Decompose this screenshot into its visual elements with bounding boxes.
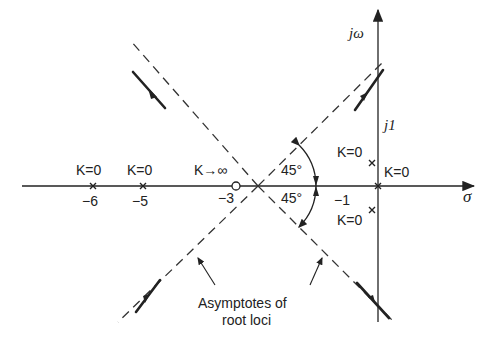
tick-minus5: −5 [132,194,148,208]
label-k0-minus5: K=0 [127,163,152,177]
label-k-infinity: K→∞ [194,163,227,177]
tick-minus3: −3 [218,191,234,205]
annotation-line1: Asymptotes of [198,296,287,310]
tick-minus6: −6 [82,194,98,208]
tick-minus1: −1 [334,193,350,207]
zero-marker [232,182,240,190]
label-sigma: σ [463,190,471,204]
root-locus-plot [0,0,492,338]
label-k0-minus6: K=0 [76,163,101,177]
label-k0-lower-complex: K=0 [337,213,362,227]
label-k0-upper-complex: K=0 [337,145,362,159]
annotation-leaders [198,258,322,285]
label-angle-upper: 45° [281,163,302,177]
label-jw: jω [349,26,364,40]
label-k0-origin: K=0 [384,165,409,179]
label-j1: j1 [384,118,396,132]
label-angle-lower: 45° [281,191,302,205]
root-locus-branches [133,70,389,318]
annotation-line2: root loci [222,313,271,327]
